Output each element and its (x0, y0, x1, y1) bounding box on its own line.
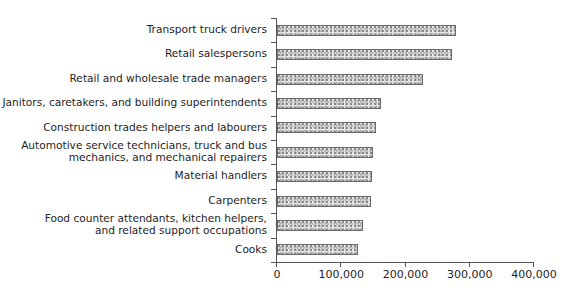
category-label-line: Carpenters (208, 194, 267, 207)
category-label: Food counter attendants, kitchen helpers… (45, 212, 267, 237)
y-tick (271, 42, 276, 43)
category-label-line: mechanics, and mechanical repairers (21, 151, 267, 164)
y-tick (271, 91, 276, 92)
x-tick (276, 262, 277, 267)
y-tick (271, 164, 276, 165)
x-tick (340, 262, 341, 267)
y-tick (271, 238, 276, 239)
bar (277, 147, 373, 158)
x-tick-label: 200,000 (383, 268, 429, 281)
x-tick (405, 262, 406, 267)
category-label: Janitors, caretakers, and building super… (2, 96, 267, 109)
bar (277, 244, 358, 255)
category-label-line: Construction trades helpers and labourer… (43, 121, 267, 134)
bar (277, 49, 452, 60)
x-tick-label: 0 (274, 268, 281, 281)
x-tick (469, 262, 470, 267)
category-label: Transport truck drivers (147, 23, 267, 36)
category-label-line: and related support occupations (45, 224, 267, 237)
category-label-line: Cooks (235, 243, 267, 256)
category-label-line: Transport truck drivers (147, 23, 267, 36)
y-tick (271, 213, 276, 214)
y-tick (271, 67, 276, 68)
bar (277, 98, 381, 109)
x-tick (533, 262, 534, 267)
category-label-line: Janitors, caretakers, and building super… (2, 96, 267, 109)
category-label: Cooks (235, 243, 267, 256)
category-label: Retail and wholesale trade managers (69, 72, 267, 85)
bar (277, 196, 371, 207)
x-tick-label: 400,000 (511, 268, 557, 281)
category-label-line: Material handlers (175, 169, 267, 182)
bar (277, 122, 376, 133)
y-tick (271, 18, 276, 19)
x-tick-label: 100,000 (319, 268, 365, 281)
y-tick (271, 116, 276, 117)
category-label: Carpenters (208, 194, 267, 207)
bar (277, 74, 423, 85)
category-label: Construction trades helpers and labourer… (43, 121, 267, 134)
category-label: Automotive service technicians, truck an… (21, 139, 267, 164)
category-label-line: Automotive service technicians, truck an… (21, 139, 267, 152)
horizontal-bar-chart: Transport truck driversRetail salesperso… (0, 0, 568, 290)
bar (277, 220, 363, 231)
category-label-line: Food counter attendants, kitchen helpers… (45, 212, 267, 225)
bar (277, 171, 372, 182)
y-tick (271, 140, 276, 141)
category-label-line: Retail salespersons (165, 47, 267, 60)
category-label-line: Retail and wholesale trade managers (69, 72, 267, 85)
category-label: Retail salespersons (165, 47, 267, 60)
y-tick (271, 189, 276, 190)
category-label: Material handlers (175, 169, 267, 182)
x-tick-label: 300,000 (447, 268, 493, 281)
bar (277, 25, 456, 36)
